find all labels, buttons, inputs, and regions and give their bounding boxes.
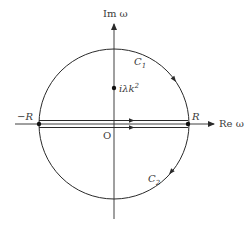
lower-segment-arrow-icon (129, 125, 135, 129)
origin-label: O (103, 131, 111, 141)
c2-label: C2 (148, 174, 160, 187)
right-point-label: R (192, 112, 200, 122)
left-point-label: −R (17, 112, 33, 122)
imaginary-axis-label: Im ω (103, 9, 128, 19)
pole-dot (112, 86, 116, 90)
c1-label: C1 (134, 57, 146, 70)
contour-diagram (0, 0, 250, 230)
left-endpoint-dot (37, 122, 41, 126)
right-endpoint-dot (186, 122, 190, 126)
real-axis-label: Re ω (219, 119, 244, 129)
upper-segment-arrow-icon (129, 118, 135, 122)
pole-label: iλk2 (119, 83, 139, 94)
